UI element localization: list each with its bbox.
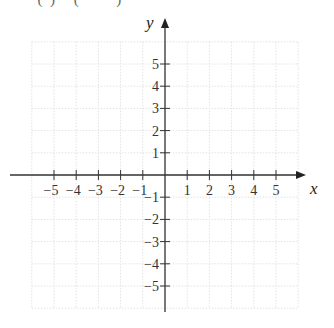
y-axis-arrow-icon (161, 18, 169, 28)
x-tick-label: 3 (228, 183, 235, 198)
y-axis-label: y (144, 13, 154, 32)
y-tick-label: 5 (152, 57, 159, 72)
x-tick-label: 2 (206, 183, 213, 198)
x-tick-label: −5 (44, 183, 59, 198)
x-axis-arrow-icon (296, 171, 306, 179)
y-tick-label: −2 (144, 212, 159, 227)
x-tick-label: −3 (88, 183, 103, 198)
y-tick-label: 4 (152, 79, 159, 94)
y-tick-label: −1 (144, 190, 159, 205)
y-tick-label: 3 (152, 101, 159, 116)
y-tick-label: −3 (144, 235, 159, 250)
x-tick-label: 1 (184, 183, 191, 198)
x-axis-label: x (309, 179, 318, 198)
x-tick-label: −2 (110, 183, 125, 198)
x-tick-label: −4 (66, 183, 81, 198)
y-tick-label: −5 (144, 279, 159, 294)
y-tick-label: 1 (152, 146, 159, 161)
y-tick-label: −4 (144, 257, 159, 272)
x-tick-label: 5 (273, 183, 280, 198)
y-tick-label: 2 (152, 124, 159, 139)
coordinate-plane: −5−4−3−2−11234554321−1−2−3−4−5 x y (0, 0, 334, 328)
x-tick-label: 4 (250, 183, 257, 198)
